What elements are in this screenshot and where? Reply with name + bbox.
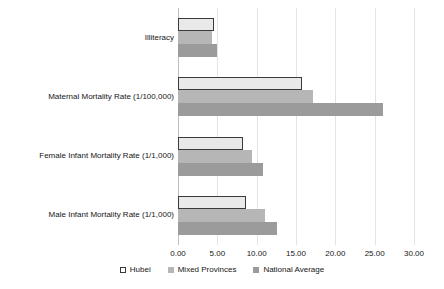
x-tick-label: 20.00 bbox=[325, 249, 345, 259]
category-label: Maternal Mortality Rate (1/100,000) bbox=[0, 92, 174, 101]
bar-national-average bbox=[178, 163, 263, 176]
bar-national-average bbox=[178, 44, 217, 57]
x-tick-label: 15.00 bbox=[286, 249, 306, 259]
bar-mixed-provinces bbox=[178, 90, 313, 103]
x-tick-label: 5.00 bbox=[210, 249, 226, 259]
category-label: Male Infant Mortality Rate (1/1,000) bbox=[0, 210, 174, 219]
mixed-provinces-swatch bbox=[168, 267, 174, 273]
x-axis-tick-labels: 0.005.0010.0015.0020.0025.0030.00 bbox=[178, 249, 414, 261]
bar-group bbox=[178, 127, 414, 186]
bar-mixed-provinces bbox=[178, 150, 252, 163]
bar-hubei bbox=[178, 196, 246, 209]
national-average-swatch bbox=[253, 267, 259, 273]
bar-mixed-provinces bbox=[178, 31, 212, 44]
category-label: Female Infant Mortality Rate (1/1,000) bbox=[0, 151, 174, 160]
bar-national-average bbox=[178, 103, 383, 116]
x-tick-label: 25.00 bbox=[365, 249, 385, 259]
bars-layer bbox=[178, 8, 414, 245]
bar-hubei bbox=[178, 18, 214, 31]
bar-mixed-provinces bbox=[178, 209, 265, 222]
chart-legend: HubeiMixed ProvincesNational Average bbox=[0, 265, 444, 275]
category-label: Illiteracy bbox=[0, 33, 174, 42]
x-tick-label: 10.00 bbox=[247, 249, 267, 259]
bar-hubei bbox=[178, 77, 302, 90]
bar-group bbox=[178, 186, 414, 245]
gridline-30.00 bbox=[414, 8, 415, 245]
legend-item-mixed-provinces[interactable]: Mixed Provinces bbox=[168, 265, 237, 275]
hubei-swatch bbox=[120, 267, 126, 273]
legend-label: National Average bbox=[263, 265, 324, 275]
x-tick-label: 0.00 bbox=[170, 249, 186, 259]
legend-item-hubei[interactable]: Hubei bbox=[120, 265, 151, 275]
legend-item-national-average[interactable]: National Average bbox=[253, 265, 324, 275]
bar-chart: IlliteracyMaternal Mortality Rate (1/100… bbox=[0, 0, 444, 289]
legend-label: Hubei bbox=[130, 265, 151, 275]
bar-group bbox=[178, 67, 414, 126]
x-tick-label: 30.00 bbox=[404, 249, 424, 259]
bar-hubei bbox=[178, 137, 243, 150]
legend-label: Mixed Provinces bbox=[178, 265, 237, 275]
plot-area bbox=[178, 8, 414, 245]
bar-national-average bbox=[178, 222, 277, 235]
bar-group bbox=[178, 8, 414, 67]
